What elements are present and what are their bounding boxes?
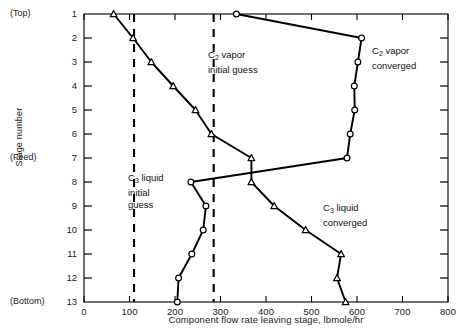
- y-axis-title: Stage number: [14, 92, 24, 182]
- y-edge-label-bottom: (Bottom): [10, 296, 45, 306]
- y-tick-label: 4: [72, 80, 77, 91]
- anno-species: C: [128, 172, 135, 183]
- annotation-c3-liquid-converged: C3 liquid converged: [323, 202, 367, 229]
- anno-species: C: [323, 202, 330, 213]
- y-tick-label: 3: [72, 56, 77, 67]
- annotation-c3-liquid-initial-guess: C3 liquid initial guess: [128, 172, 164, 211]
- x-axis-title: Component flow rate leaving stage, lbmol…: [84, 314, 448, 325]
- y-tick-label: 12: [66, 272, 77, 283]
- anno-line2: converged: [323, 217, 367, 229]
- anno-line2: converged: [372, 60, 416, 72]
- anno-rest: liquid: [139, 172, 164, 183]
- y-edge-label-top: (Top): [10, 8, 31, 18]
- annotation-c2-vapor-initial-guess: C2 vapor initial guess: [208, 49, 258, 76]
- y-edge-label-feed: (Feed): [10, 152, 37, 162]
- y-tick-label: 11: [67, 248, 77, 259]
- anno-line2: initial: [128, 187, 164, 199]
- y-tick-label: 1: [72, 8, 77, 19]
- anno-line3: guess: [128, 199, 164, 211]
- anno-species: C: [208, 49, 215, 60]
- y-tick-label: 6: [72, 128, 77, 139]
- anno-species: C: [372, 45, 379, 56]
- y-tick-label: 8: [72, 176, 77, 187]
- anno-rest: vapor: [383, 45, 409, 56]
- y-tick-label: 2: [72, 32, 77, 43]
- y-tick-label: 5: [72, 104, 77, 115]
- annotation-c2-vapor-converged: C2 vapor converged: [372, 45, 416, 72]
- y-tick-label: 9: [72, 200, 77, 211]
- y-tick-label: 7: [72, 152, 77, 163]
- anno-rest: vapor: [219, 49, 245, 60]
- anno-rest: liquid: [334, 202, 359, 213]
- y-tick-label: 10: [66, 224, 77, 235]
- y-tick-label: 13: [66, 296, 77, 307]
- anno-line2: initial guess: [208, 64, 258, 76]
- chart-figure: 0100200300400500600700800 12345678910111…: [0, 0, 465, 333]
